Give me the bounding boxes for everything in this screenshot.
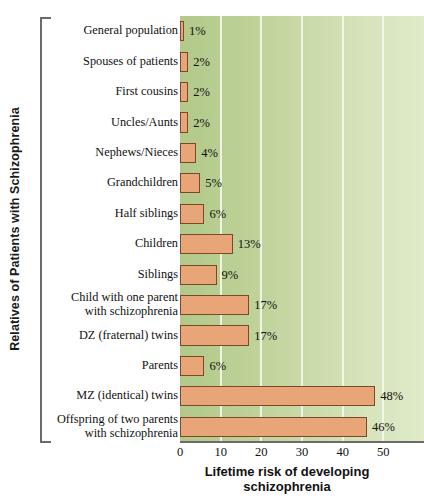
bar (180, 204, 204, 224)
gridline (342, 16, 344, 442)
category-label: Spouses of patients (52, 46, 178, 76)
category-label-line: Uncles/Aunts (111, 116, 178, 130)
category-label-line: Children (135, 237, 178, 251)
category-label: First cousins (52, 77, 178, 107)
category-label: Child with one parentwith schizophrenia (52, 290, 178, 320)
category-label-line: Half siblings (115, 207, 178, 221)
category-label: Offspring of two parentswith schizophren… (52, 412, 178, 442)
bar (180, 356, 204, 376)
bar (180, 325, 249, 345)
schizophrenia-risk-chart: Relatives of Patients with Schizophrenia… (0, 0, 424, 501)
x-tick-label: 30 (296, 445, 309, 460)
bar-value-label: 17% (254, 328, 277, 343)
y-axis-title-container: Relatives of Patients with Schizophrenia (0, 16, 30, 442)
category-label-line: First cousins (115, 85, 178, 99)
y-axis-title: Relatives of Patients with Schizophrenia (8, 107, 22, 351)
x-tick-label: 20 (255, 445, 268, 460)
gridline (382, 16, 384, 442)
category-label-column: General populationSpouses of patientsFir… (52, 16, 178, 442)
category-label: DZ (fraternal) twins (52, 320, 178, 350)
x-axis-line (180, 441, 424, 443)
category-label: Children (52, 229, 178, 259)
category-label: Nephews/Nieces (52, 138, 178, 168)
gridline (301, 16, 303, 442)
category-label-line: Child with one parent (71, 291, 178, 305)
bar-value-label: 6% (209, 206, 226, 221)
category-label-line: with schizophrenia (57, 427, 178, 441)
bar-value-label: 1% (189, 24, 206, 39)
bar (180, 265, 217, 285)
gridline (260, 16, 262, 442)
category-label-line: General population (83, 24, 178, 38)
bar-value-label: 2% (193, 54, 210, 69)
bar (180, 417, 367, 437)
category-label-line: Spouses of patients (83, 55, 178, 69)
bar (180, 386, 375, 406)
bar (180, 143, 196, 163)
bar-value-label: 4% (201, 145, 218, 160)
bar-value-label: 5% (205, 176, 222, 191)
x-tick-label: 40 (336, 445, 349, 460)
category-label-line: Parents (142, 359, 178, 373)
category-label-line: MZ (identical) twins (76, 389, 178, 403)
x-axis-title-line1: Lifetime risk of developing (150, 464, 424, 479)
plot-area: 1%2%2%2%4%5%6%13%9%17%17%6%48%46% (180, 16, 424, 442)
bar-value-label: 2% (193, 115, 210, 130)
gridline (220, 16, 222, 442)
x-axis-title: Lifetime risk of developing schizophreni… (150, 464, 424, 495)
bar-value-label: 6% (209, 358, 226, 373)
category-label: MZ (identical) twins (52, 381, 178, 411)
x-axis-title-line2: schizophrenia (150, 479, 424, 494)
bar-value-label: 48% (380, 389, 403, 404)
x-tick-label: 50 (377, 445, 390, 460)
bar-value-label: 2% (193, 85, 210, 100)
bar (180, 234, 233, 254)
bar (180, 112, 188, 132)
bar (180, 173, 200, 193)
bar (180, 295, 249, 315)
bar-value-label: 17% (254, 298, 277, 313)
x-tick-label: 0 (177, 445, 183, 460)
category-label: Siblings (52, 259, 178, 289)
category-label-line: with schizophrenia (71, 305, 178, 319)
category-label-line: Siblings (138, 268, 178, 282)
bar (180, 52, 188, 72)
category-label-line: DZ (fraternal) twins (79, 329, 178, 343)
bar (180, 82, 188, 102)
category-label: Parents (52, 351, 178, 381)
category-label: General population (52, 16, 178, 46)
category-group-bracket (40, 17, 51, 443)
category-label-line: Nephews/Nieces (95, 146, 178, 160)
bar-value-label: 13% (238, 237, 261, 252)
bar-value-label: 46% (372, 419, 395, 434)
x-axis-tick-labels: 01020304050 (180, 445, 424, 463)
category-label-line: Offspring of two parents (57, 413, 178, 427)
bar (180, 21, 184, 41)
category-label: Grandchildren (52, 168, 178, 198)
x-tick-label: 10 (214, 445, 227, 460)
category-label-line: Grandchildren (107, 176, 178, 190)
bar-value-label: 9% (222, 267, 239, 282)
category-label: Half siblings (52, 199, 178, 229)
category-label: Uncles/Aunts (52, 107, 178, 137)
